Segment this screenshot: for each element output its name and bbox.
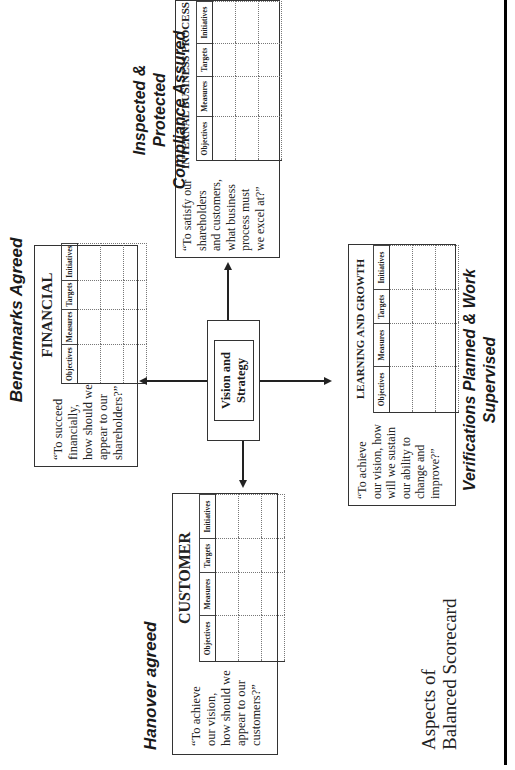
learning-title: LEARNING AND GROWTH	[354, 245, 366, 413]
table-row	[390, 246, 413, 413]
quote-line: how should we	[219, 662, 234, 746]
col-targets: Targets	[62, 280, 78, 309]
quote-line: will we sustain	[384, 411, 399, 499]
quote-line: improve?”	[428, 411, 443, 499]
financial-table: Objectives Measures Targets Initiatives	[61, 243, 147, 384]
table-row	[259, 2, 282, 161]
quote-line: what business	[224, 161, 239, 251]
table-row	[78, 243, 101, 383]
strategy-label: Strategy	[234, 358, 249, 403]
table-row	[436, 246, 459, 413]
customer-title: CUSTOMER	[176, 494, 194, 662]
col-targets: Targets	[374, 290, 390, 324]
quote-line: financially,	[66, 384, 81, 460]
col-initiatives: Initiatives	[62, 243, 78, 280]
internal-table: Objectives Measures Targets Initiatives	[196, 1, 282, 161]
internal-quote: “To satisfy our shareholders and custome…	[180, 161, 267, 251]
table-row	[262, 495, 285, 662]
diagram-title: Aspects of Balanced Scorecard	[418, 550, 460, 750]
col-objectives: Objectives	[197, 117, 213, 161]
learning-table: Objectives Measures Targets Initiatives	[373, 245, 459, 413]
table-row	[239, 495, 262, 662]
quote-line: our ability to	[399, 411, 414, 499]
quote-line: shareholders?”	[111, 384, 126, 460]
quote-line: and customers,	[209, 161, 224, 251]
quote-line: process must	[238, 161, 253, 251]
customer-quote: “To achieve our vision, how should we ap…	[189, 662, 264, 746]
col-measures: Measures	[374, 324, 390, 366]
internal-process-box: INTERNAL BUSINESS PROCESS “To satisfy ou…	[175, 0, 280, 258]
table-row	[216, 495, 239, 662]
arrowhead-up-icon	[139, 378, 147, 386]
col-measures: Measures	[200, 573, 216, 615]
bottom-rule-divider	[504, 0, 507, 765]
label-line: Supervised	[480, 260, 500, 500]
table-row	[124, 243, 147, 383]
col-measures: Measures	[62, 309, 78, 345]
quote-line: customers?”	[249, 662, 264, 746]
financial-perspective-box: “To succeed financially, how should we a…	[34, 245, 138, 467]
table-row	[413, 246, 436, 413]
quote-line: “To achieve	[189, 662, 204, 746]
col-objectives: Objectives	[62, 345, 78, 384]
label-inspected-protected: Inspected & Protected Compliance Assured	[130, 30, 190, 190]
col-initiatives: Initiatives	[200, 495, 216, 539]
arrow-to-internal	[227, 270, 229, 320]
label-benchmarks-agreed: Benchmarks Agreed	[6, 170, 27, 470]
col-objectives: Objectives	[200, 615, 216, 661]
title-line: Aspects of	[418, 550, 439, 750]
arrowhead-left-icon	[239, 480, 247, 488]
financial-title: FINANCIAL	[39, 246, 56, 384]
vision-strategy-inner-box: Vision and Strategy	[214, 340, 254, 421]
quote-line: how should we	[81, 384, 96, 460]
col-initiatives: Initiatives	[197, 2, 213, 44]
learning-growth-box: “To achieve our vision, how will we sust…	[348, 244, 456, 506]
table-row	[236, 2, 259, 161]
customer-perspective-box: “To achieve our vision, how should we ap…	[172, 493, 278, 755]
col-initiatives: Initiatives	[374, 246, 390, 290]
quote-line: our vision, how	[370, 411, 385, 499]
table-row	[101, 243, 124, 383]
arrowhead-right-icon	[224, 262, 232, 270]
table-row	[213, 2, 236, 161]
col-objectives: Objectives	[374, 366, 390, 412]
quote-line: we excel at?”	[253, 161, 268, 251]
vision-label: Vision and	[219, 352, 234, 409]
arrowhead-down-icon	[324, 378, 332, 386]
balanced-scorecard-diagram: Benchmarks Agreed “To succeed financiall…	[0, 0, 515, 770]
label-line: Compliance Assured	[170, 30, 190, 190]
col-targets: Targets	[197, 44, 213, 77]
financial-quote: “To succeed financially, how should we a…	[51, 384, 126, 460]
label-hanover-agreed: Hanover agreed	[140, 590, 161, 750]
arrow-to-learning	[260, 381, 324, 383]
quote-line: appear to our	[234, 662, 249, 746]
col-measures: Measures	[197, 76, 213, 116]
col-targets: Targets	[200, 539, 216, 573]
label-line: Inspected & Protected	[130, 30, 170, 190]
quote-line: our vision,	[204, 662, 219, 746]
arrow-to-customer	[242, 441, 244, 481]
label-line: Verifications Planned & Work	[460, 260, 480, 500]
quote-line: appear to our	[96, 384, 111, 460]
quote-line: shareholders	[195, 161, 210, 251]
quote-line: change and	[413, 411, 428, 499]
quote-line: “To succeed	[51, 384, 66, 460]
learning-quote: “To achieve our vision, how will we sust…	[355, 411, 442, 499]
customer-table: Objectives Measures Targets Initiatives	[199, 494, 285, 662]
label-verifications-planned: Verifications Planned & Work Supervised	[460, 260, 500, 500]
title-line: Balanced Scorecard	[439, 550, 460, 750]
arrow-to-financial	[145, 381, 207, 383]
quote-line: “To achieve	[355, 411, 370, 499]
